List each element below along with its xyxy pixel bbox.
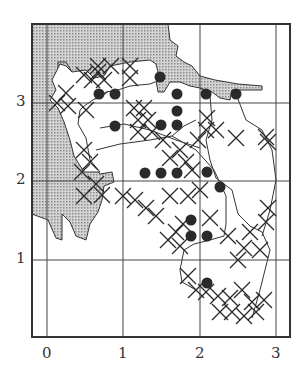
cross-marker-icon: [162, 188, 178, 204]
cross-marker-icon: [210, 288, 226, 304]
x-tick-label: 1: [118, 344, 128, 362]
dot-marker-icon: [231, 89, 242, 100]
dot-marker-icon: [202, 167, 213, 178]
y-tick-label: 1: [16, 249, 26, 267]
dot-marker-icon: [172, 89, 183, 100]
dot-marker-icon: [172, 106, 183, 117]
cross-marker-icon: [184, 162, 200, 178]
dot-marker-icon: [172, 168, 183, 179]
x-tick-label: 0: [42, 344, 52, 362]
cross-marker-icon: [260, 134, 276, 150]
dot-marker-icon: [172, 120, 183, 131]
y-tick-label: 3: [16, 92, 26, 110]
cross-marker-icon: [148, 208, 164, 224]
cross-marker-icon: [138, 200, 154, 216]
dot-marker-icon: [201, 89, 212, 100]
distribution-map: [0, 0, 308, 379]
x-tick-label: 2: [195, 344, 205, 362]
dot-marker-icon: [110, 89, 121, 100]
dot-marker-icon: [94, 89, 105, 100]
cross-marker-icon: [190, 132, 206, 148]
dot-marker-icon: [156, 120, 167, 131]
dot-marker-icon: [186, 231, 197, 242]
dot-marker-icon: [186, 215, 197, 226]
y-tick-label: 2: [16, 170, 26, 188]
cross-marker-icon: [127, 192, 143, 208]
cross-marker-icon: [162, 150, 178, 166]
cross-marker-icon: [140, 112, 156, 128]
cross-marker-icon: [126, 100, 142, 116]
dot-marker-icon: [156, 168, 167, 179]
dot-marker-icon: [140, 168, 151, 179]
cross-marker-icon: [234, 282, 250, 298]
cross-marker-icon: [202, 210, 218, 226]
cross-marker-icon: [130, 124, 146, 140]
cross-marker-icon: [155, 132, 171, 148]
dot-marker-icon: [215, 182, 226, 193]
cross-marker-icon: [258, 214, 274, 230]
cross-marker-icon: [208, 122, 224, 138]
cross-marker-icon: [228, 130, 244, 146]
dot-marker-icon: [202, 278, 213, 289]
x-tick-label: 3: [271, 344, 281, 362]
cross-marker-icon: [212, 304, 228, 320]
cross-marker-icon: [258, 129, 274, 145]
dot-marker-icon: [110, 121, 121, 132]
cross-marker-icon: [256, 292, 272, 308]
dot-marker-icon: [155, 72, 166, 83]
cross-marker-icon: [252, 242, 268, 258]
dot-marker-icon: [202, 231, 213, 242]
cross-marker-icon: [236, 308, 252, 324]
cross-marker-icon: [180, 268, 196, 284]
